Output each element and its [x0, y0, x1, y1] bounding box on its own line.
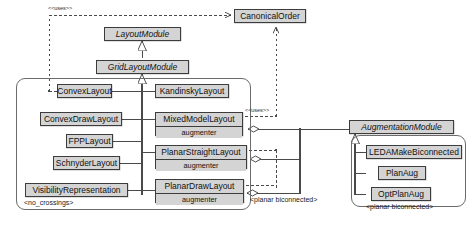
edge-label-uses-top: <<uses>> — [48, 6, 72, 12]
class-fpp-layout[interactable]: FPPLayout — [66, 134, 113, 148]
class-plan-aug-label: PlanAug — [386, 169, 418, 178]
uml-diagram-canvas: CanonicalOrder LayoutModule GridLayoutMo… — [0, 0, 475, 234]
class-convex-layout-label: ConvexLayout — [57, 87, 111, 96]
class-canonical-order[interactable]: CanonicalOrder — [234, 9, 306, 23]
interface-augmentation-module-label: AugmentationModule — [361, 123, 441, 132]
class-planar-draw-layout-label: PlanarDrawLayout — [156, 180, 243, 194]
class-kandinsky-layout[interactable]: KandinskyLayout — [155, 84, 229, 98]
class-mixed-model-layout-attribute: augmenter — [156, 127, 242, 138]
class-leda-make-biconnected[interactable]: LEDAMakeBiconnected — [366, 145, 462, 159]
class-opt-plan-aug[interactable]: OptPlanAug — [371, 187, 431, 201]
group-label-planar-biconnected-middle: <planar biconnected> — [250, 196, 317, 203]
class-visibility-representation[interactable]: VisibilityRepresentation — [25, 183, 128, 197]
class-visibility-representation-label: VisibilityRepresentation — [32, 186, 120, 195]
class-fpp-layout-label: FPPLayout — [68, 137, 110, 146]
group-label-no-crossings: <no_crossings> — [24, 199, 73, 206]
class-kandinsky-layout-label: KandinskyLayout — [160, 87, 225, 96]
class-convex-layout[interactable]: ConvexLayout — [57, 84, 112, 98]
group-label-planar-biconnected-right: <planar biconnected> — [366, 203, 433, 210]
class-mixed-model-layout-label: MixedModelLayout — [156, 113, 242, 127]
edge-label-uses-mixed-model: <<uses>> — [245, 108, 269, 114]
class-schnyder-layout[interactable]: SchnyderLayout — [53, 156, 120, 170]
class-schnyder-layout-label: SchnyderLayout — [56, 159, 117, 168]
class-planar-straight-layout-attribute: augmenter — [156, 160, 246, 171]
interface-grid-layout-module-label: GridLayoutModule — [108, 63, 177, 72]
class-planar-draw-layout-attribute: augmenter — [156, 194, 243, 205]
interface-grid-layout-module[interactable]: GridLayoutModule — [96, 60, 189, 74]
interface-layout-module-label: LayoutModule — [116, 30, 169, 39]
class-planar-straight-layout-label: PlanarStraightLayout — [156, 146, 246, 160]
class-convex-draw-layout[interactable]: ConvexDrawLayout — [40, 112, 122, 126]
class-planar-draw-layout[interactable]: PlanarDrawLayout augmenter — [155, 179, 244, 203]
interface-augmentation-module[interactable]: AugmentationModule — [349, 120, 454, 134]
class-opt-plan-aug-label: OptPlanAug — [378, 190, 424, 199]
class-canonical-order-label: CanonicalOrder — [240, 12, 300, 21]
class-mixed-model-layout[interactable]: MixedModelLayout augmenter — [155, 112, 243, 136]
interface-layout-module[interactable]: LayoutModule — [104, 27, 181, 41]
class-leda-make-biconnected-label: LEDAMakeBiconnected — [369, 148, 459, 157]
class-planar-straight-layout[interactable]: PlanarStraightLayout augmenter — [155, 145, 247, 169]
class-convex-draw-layout-label: ConvexDrawLayout — [44, 115, 118, 124]
class-plan-aug[interactable]: PlanAug — [378, 166, 426, 180]
